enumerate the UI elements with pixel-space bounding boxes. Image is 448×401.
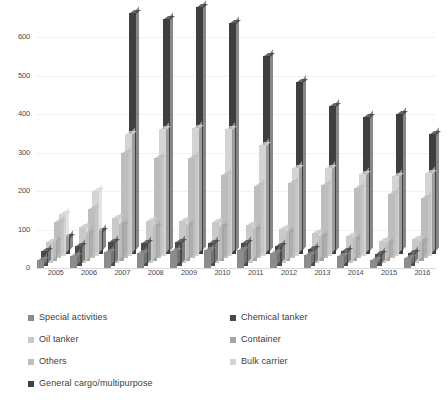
legend-swatch-icon [28, 381, 34, 387]
legend-swatch-icon [28, 359, 34, 365]
bar [304, 255, 311, 268]
bar-group [270, 18, 303, 268]
bar-group [404, 18, 437, 268]
bar-side [170, 12, 173, 250]
bar [104, 252, 111, 268]
bar-face [404, 258, 411, 268]
bar-group [37, 18, 70, 268]
bar [337, 256, 344, 268]
bar-top [92, 188, 104, 192]
bar-side [195, 151, 198, 256]
bar-side [399, 169, 402, 253]
bar-face [37, 260, 44, 268]
legend-swatch-icon [230, 315, 236, 321]
bar-side [166, 122, 169, 253]
bar-group [104, 18, 137, 268]
bar-group [70, 18, 103, 268]
x-axis-tick-label: 2008 [148, 268, 164, 278]
bar-side [132, 127, 135, 253]
legend-item[interactable]: Special activities [28, 312, 107, 323]
bar-group [370, 18, 403, 268]
bar-side [328, 178, 331, 256]
bar-top [429, 131, 441, 135]
bar-side [395, 187, 398, 255]
bar-top [129, 10, 141, 14]
bar-side [403, 108, 406, 251]
bar-group [170, 18, 203, 268]
bar-side [203, 1, 206, 251]
bar-side [428, 191, 431, 256]
bar-group [204, 18, 237, 268]
y-axis-tick-label: 200 [18, 187, 30, 195]
bar [137, 253, 144, 268]
legend-item-label: Container [241, 334, 281, 345]
bar-side [361, 182, 364, 256]
bar-top [196, 4, 208, 8]
bar [70, 256, 77, 268]
legend-swatch-icon [230, 337, 236, 343]
y-axis-tick-label: 500 [18, 72, 30, 80]
x-axis-tick-label: 2014 [348, 268, 364, 278]
legend-item-label: Bulk carrier [241, 356, 288, 367]
bar-side [270, 49, 273, 251]
bar-face [104, 252, 111, 268]
bar-group [137, 18, 170, 268]
legend-item[interactable]: Others [28, 356, 67, 367]
legend-swatch-icon [230, 359, 236, 365]
bar-face [204, 250, 211, 268]
bar-group [237, 18, 270, 268]
x-axis-tick-label: 2005 [48, 268, 64, 278]
legend-swatch-icon [28, 337, 34, 343]
bar-side [299, 161, 302, 253]
bar-side [332, 161, 335, 253]
bar [404, 258, 411, 268]
bar-group [304, 18, 337, 268]
y-axis-tick-label: 300 [18, 149, 30, 157]
legend-item[interactable]: General cargo/multipurpose [28, 378, 153, 389]
x-axis-tick-label: 2006 [81, 268, 97, 278]
bar-group [337, 18, 370, 268]
bar [37, 260, 44, 268]
bar-side [232, 122, 235, 253]
bar-face [237, 250, 244, 268]
x-axis-tick-label: 2016 [414, 268, 430, 278]
bar-face [337, 256, 344, 268]
bar-side [366, 168, 369, 253]
bar [204, 250, 211, 268]
bar-face [137, 253, 144, 268]
bar-side [303, 76, 306, 251]
bar [170, 251, 177, 268]
legend-item-label: General cargo/multipurpose [39, 378, 153, 389]
x-axis-tick-label: 2013 [314, 268, 330, 278]
bar-side [295, 176, 298, 255]
bar-side [144, 246, 147, 265]
bar-side [370, 110, 373, 250]
x-axis-tick-label: 2007 [114, 268, 130, 278]
y-axis: 0100200300400500600 [0, 18, 32, 268]
chart-legend: Special activitiesChemical tankerOil tan… [28, 312, 420, 398]
bar [237, 250, 244, 268]
y-axis-tick-label: 600 [18, 33, 30, 41]
bar-side [128, 146, 131, 256]
legend-item[interactable]: Bulk carrier [230, 356, 288, 367]
x-axis-tick-label: 2012 [281, 268, 297, 278]
bar-side [199, 121, 202, 253]
legend-item[interactable]: Chemical tanker [230, 312, 308, 323]
y-axis-tick-label: 400 [18, 110, 30, 118]
bar-side [266, 138, 269, 253]
bar-side [228, 168, 231, 256]
bar-side [161, 151, 164, 256]
legend-item[interactable]: Oil tanker [28, 334, 79, 345]
bar-side [432, 166, 435, 253]
bar-side [99, 185, 102, 253]
legend-item-label: Oil tanker [39, 334, 79, 345]
legend-item[interactable]: Container [230, 334, 281, 345]
x-axis-tick-label: 2009 [181, 268, 197, 278]
bar-face [304, 255, 311, 268]
x-axis-tick-label: 2011 [248, 268, 263, 278]
y-axis-tick-label: 100 [18, 226, 30, 234]
bar-side [436, 127, 439, 251]
bar-side [261, 179, 264, 255]
x-axis-tick-label: 2015 [381, 268, 397, 278]
chart-container: 0100200300400500600 20052006200720082009… [0, 0, 448, 401]
